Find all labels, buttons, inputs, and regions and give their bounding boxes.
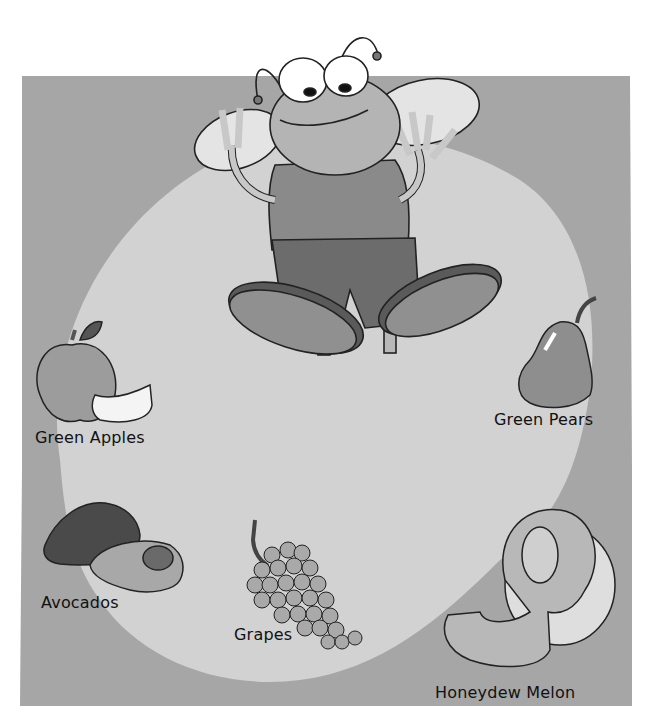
label-avocados: Avocados — [41, 593, 119, 612]
label-grapes: Grapes — [234, 625, 292, 644]
label-green-apples: Green Apples — [35, 428, 145, 447]
label-honeydew-melon: Honeydew Melon — [435, 683, 575, 702]
label-green-pears: Green Pears — [494, 410, 593, 429]
